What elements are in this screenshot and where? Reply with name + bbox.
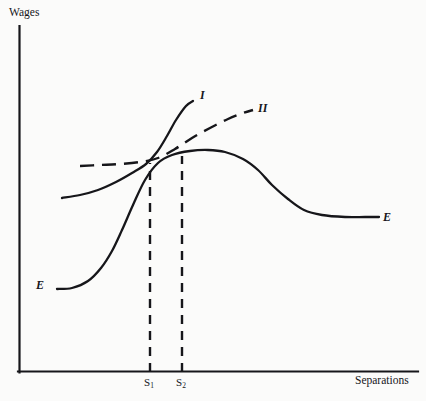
tick-label-s2-subscript: 2 xyxy=(182,381,186,390)
tick-label-s1-subscript: 1 xyxy=(150,381,154,390)
tick-label-s2: S2 xyxy=(176,377,186,388)
axes-group xyxy=(18,26,418,373)
curves-group xyxy=(57,101,379,289)
curve-E xyxy=(57,150,379,289)
curve-label-i: I xyxy=(200,89,205,101)
chart-canvas xyxy=(0,0,426,401)
tick-label-s1: S1 xyxy=(144,377,154,388)
curve-label-e-right: E xyxy=(383,211,391,223)
curve-label-ii: II xyxy=(258,102,267,114)
x-axis-label: Separations xyxy=(355,375,409,387)
y-axis-label: Wages xyxy=(9,7,39,19)
curve-label-e-left: E xyxy=(36,279,44,291)
droplines-group xyxy=(150,156,182,372)
wages-separations-figure: Wages Separations I II E E S1 S2 xyxy=(0,0,426,401)
